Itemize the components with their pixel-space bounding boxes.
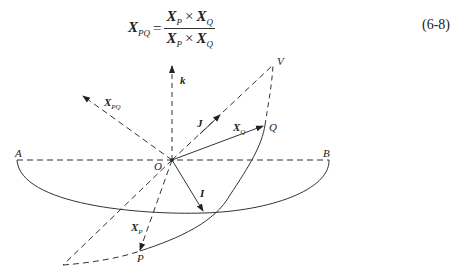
vector-I bbox=[172, 160, 203, 211]
label-A: A bbox=[14, 147, 22, 159]
label-O: O bbox=[154, 160, 162, 172]
vector-XP bbox=[140, 160, 172, 250]
arc-lowerleft-P bbox=[63, 251, 140, 265]
vector-XQ bbox=[172, 126, 263, 160]
vector-diagram: A B O V Q P k J I XQ XP XPQ bbox=[0, 0, 466, 279]
label-B: B bbox=[323, 147, 330, 159]
label-I: I bbox=[199, 187, 205, 199]
arc-QV bbox=[265, 65, 273, 125]
line-OV bbox=[172, 65, 273, 160]
label-k: k bbox=[180, 74, 186, 86]
label-XQ: XQ bbox=[232, 121, 245, 136]
equator-arc bbox=[17, 160, 329, 213]
vector-J bbox=[200, 115, 220, 134]
origin-point bbox=[170, 158, 174, 162]
label-V: V bbox=[277, 55, 285, 67]
vector-XPQ bbox=[83, 96, 172, 160]
label-XPQ: XPQ bbox=[103, 96, 121, 111]
label-XP: XP bbox=[130, 221, 143, 236]
label-Q: Q bbox=[269, 121, 277, 133]
label-P: P bbox=[136, 252, 144, 264]
label-J: J bbox=[196, 117, 203, 129]
